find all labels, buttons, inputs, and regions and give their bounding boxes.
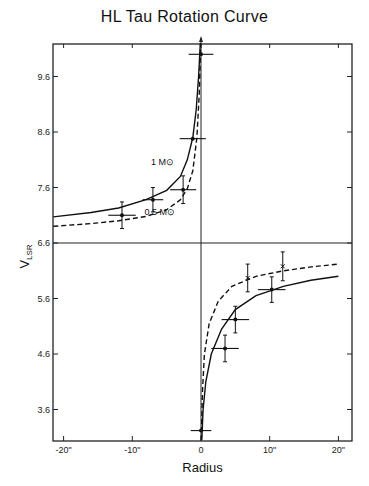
dot-marker [223,346,227,350]
curve-1-msun [53,43,200,217]
y-tick-label: 9.6 [37,72,50,82]
dot-marker [199,52,203,56]
y-tick-label: 8.6 [37,127,50,137]
curve-0.5-msun [53,43,200,226]
axis-ticks: -20"-10"010"20"3.64.65.66.67.68.69.6 [37,44,352,455]
chart-canvas: -20"-10"010"20"3.64.65.66.67.68.69.6 1 M… [0,0,369,486]
y-tick-label: 3.6 [37,405,50,415]
y-tick-label: 6.6 [37,238,50,248]
curve-annotation: 1 M⊙ [151,157,174,167]
x-tick-label: 0 [198,445,203,455]
x-tick-label: -20" [55,445,71,455]
y-tick-label: 7.6 [37,183,50,193]
x-tick-label: -10" [124,445,140,455]
arrow-icon [199,36,203,42]
dot-marker [191,137,195,141]
curve-annotation: 0.5 M⊙ [145,207,176,217]
curve-1-msun [202,276,339,440]
x-tick-label: 10" [263,445,276,455]
dot-marker [233,318,237,322]
dot-marker [120,213,124,217]
x-axis-title: Radius [182,460,223,475]
x-tick-label: 20" [332,445,345,455]
y-tick-label: 4.6 [37,349,50,359]
y-tick-label: 5.6 [37,294,50,304]
dot-marker [181,188,185,192]
y-axis-title: VLSR [17,244,34,268]
dot-marker [270,288,274,292]
dot-marker [151,198,155,202]
dot-marker [199,429,203,433]
model-curves: 1 M⊙0.5 M⊙ [53,43,338,440]
